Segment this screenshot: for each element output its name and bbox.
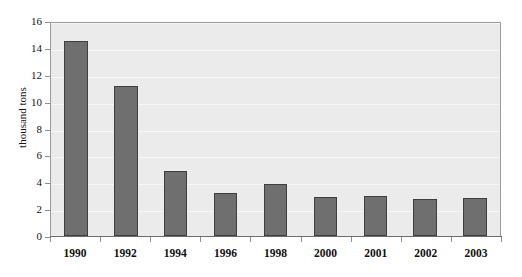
y-tick-label: 2 <box>2 204 42 215</box>
bar-slot <box>201 23 251 236</box>
y-tick-label: 16 <box>2 16 42 27</box>
y-tick-mark <box>45 76 50 77</box>
x-tick-label: 2001 <box>351 246 401 266</box>
bar <box>264 184 287 236</box>
x-tick-label: 1990 <box>50 246 100 266</box>
bar <box>114 86 137 237</box>
bar <box>364 196 387 236</box>
bar-slot <box>101 23 151 236</box>
bar-slot <box>300 23 350 236</box>
y-tick-mark <box>45 237 50 238</box>
bar <box>463 198 486 236</box>
y-tick-mark <box>45 183 50 184</box>
y-tick-label: 12 <box>2 70 42 81</box>
bar-slot <box>400 23 450 236</box>
x-axis-line <box>50 236 502 237</box>
bar-slot <box>251 23 301 236</box>
bar-series <box>51 23 500 236</box>
bar-slot <box>51 23 101 236</box>
x-axis-tick-labels: 199019921994199619982000200120022003 <box>50 246 501 266</box>
x-tick-mark <box>150 237 151 242</box>
x-tick-mark <box>250 237 251 242</box>
y-tick-label: 6 <box>2 150 42 161</box>
x-tick-mark <box>501 237 502 242</box>
x-tick-label: 2000 <box>301 246 351 266</box>
x-tick-mark <box>301 237 302 242</box>
plot-inner <box>51 23 500 236</box>
bar <box>413 199 436 236</box>
y-tick-label: 14 <box>2 43 42 54</box>
x-tick-label: 2003 <box>451 246 501 266</box>
y-tick-label: 0 <box>2 231 42 242</box>
x-tick-label: 1992 <box>100 246 150 266</box>
y-tick-label: 4 <box>2 177 42 188</box>
x-tick-mark <box>200 237 201 242</box>
y-tick-mark <box>45 130 50 131</box>
x-tick-mark <box>351 237 352 242</box>
bar <box>64 41 87 236</box>
y-tick-mark <box>45 49 50 50</box>
bar-chart: thousand tons 0246810121416 199019921994… <box>0 0 522 277</box>
bar <box>214 193 237 236</box>
x-tick-mark <box>451 237 452 242</box>
x-tick-mark <box>50 237 51 242</box>
y-axis-tick-labels: 0246810121416 <box>0 0 42 277</box>
x-tick-label: 1994 <box>150 246 200 266</box>
x-tick-label: 2002 <box>401 246 451 266</box>
y-tick-mark <box>45 210 50 211</box>
bar-slot <box>350 23 400 236</box>
x-tick-label: 1996 <box>200 246 250 266</box>
y-tick-mark <box>45 156 50 157</box>
y-tick-mark <box>45 103 50 104</box>
y-tick-label: 10 <box>2 97 42 108</box>
x-tick-label: 1998 <box>250 246 300 266</box>
bar <box>314 197 337 236</box>
y-tick-mark <box>45 22 50 23</box>
y-tick-label: 8 <box>2 124 42 135</box>
plot-area <box>50 22 501 237</box>
x-tick-mark <box>401 237 402 242</box>
x-tick-mark <box>100 237 101 242</box>
bar-slot <box>151 23 201 236</box>
bar-slot <box>450 23 500 236</box>
bar <box>164 171 187 236</box>
